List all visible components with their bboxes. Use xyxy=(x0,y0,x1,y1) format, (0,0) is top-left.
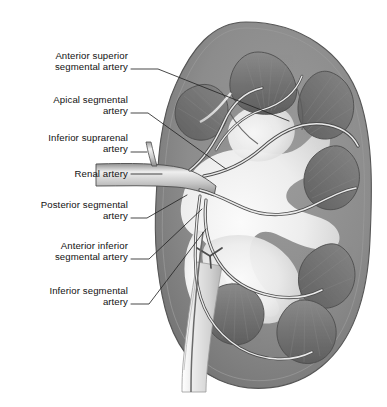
label-apical-segmental-artery: Apical segmental artery xyxy=(20,94,128,117)
inferior-suprarenal-artery xyxy=(146,142,157,166)
label-renal-artery: Renal artery xyxy=(22,168,128,179)
label-inferior-segmental-artery: Inferior segmental artery xyxy=(20,285,128,308)
label-anterior-superior-segmental-artery: Anterior superior segmental artery xyxy=(20,50,128,73)
label-inferior-suprarenal-artery: Inferior suprarenal artery xyxy=(14,132,128,155)
label-anterior-inferior-segmental-artery: Anterior inferior segmental artery xyxy=(22,240,128,263)
label-posterior-segmental-artery: Posterior segmental artery xyxy=(12,199,128,222)
